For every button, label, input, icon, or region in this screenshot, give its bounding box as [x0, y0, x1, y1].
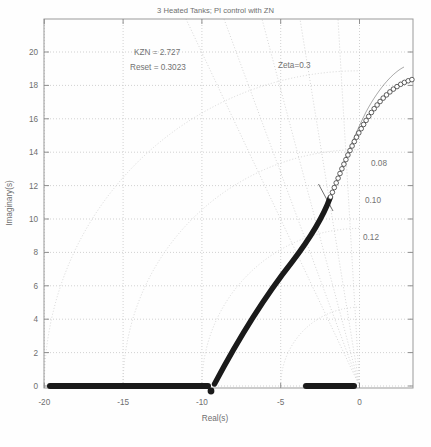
y-tick-label: 8: [33, 248, 38, 257]
y-axis-title: Imaginary(s): [5, 180, 14, 226]
x-axis-title: Real(s): [202, 414, 229, 423]
x-tick-label: -20: [38, 398, 50, 407]
y-tick-label: 10: [29, 215, 39, 224]
y-tick-label: 2: [33, 349, 38, 358]
y-tick-label: 0: [33, 382, 38, 391]
x-tick-label: -5: [277, 398, 285, 407]
y-tick-label: 12: [29, 182, 39, 191]
x-tick-label: 0: [357, 398, 362, 407]
damping-label-008: 0.08: [371, 159, 387, 168]
y-tick-label: 18: [29, 81, 39, 90]
x-tick-label: -10: [196, 398, 208, 407]
plot-canvas: 3 Heated Tanks; PI control with ZN: [0, 0, 431, 447]
y-tick-label: 20: [29, 48, 39, 57]
root-locus-figure: 3 Heated Tanks; PI control with ZN: [0, 0, 431, 447]
y-tick-label: 6: [33, 282, 38, 291]
zeta-annotation: Zeta=0.3: [278, 61, 311, 70]
y-tick-label: 4: [33, 315, 38, 324]
x-tick-label: -15: [117, 398, 129, 407]
damping-label-012: 0.12: [363, 233, 379, 242]
reset-annotation: Reset = 0.3023: [130, 63, 186, 72]
gain-annotation: KZN = 2.727: [134, 48, 181, 57]
y-tick-label: 16: [29, 115, 39, 124]
figure-title: 3 Heated Tanks; PI control with ZN: [157, 6, 274, 15]
locus-breakaway-point: [208, 388, 215, 395]
y-tick-label: 14: [29, 148, 39, 157]
damping-label-010: 0.10: [365, 196, 381, 205]
